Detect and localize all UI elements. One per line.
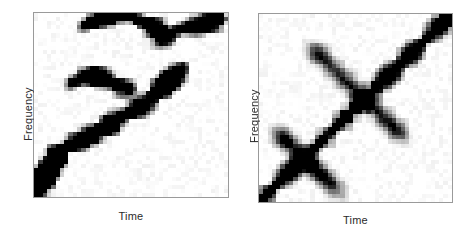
x-axis-label-left: Time bbox=[33, 210, 229, 222]
heatmap-plot-left[interactable] bbox=[33, 12, 229, 198]
panel-left: Frequency Time bbox=[0, 0, 235, 235]
heatmap-canvas-right bbox=[259, 14, 452, 202]
y-axis-label-right: Frequency bbox=[248, 89, 260, 143]
figure-container: Frequency Time Frequency Time bbox=[0, 0, 469, 235]
heatmap-canvas-left bbox=[34, 13, 228, 197]
x-axis-label-right: Time bbox=[258, 214, 453, 226]
heatmap-plot-right[interactable] bbox=[258, 13, 453, 203]
y-axis-label-left: Frequency bbox=[22, 87, 34, 141]
panel-right: Frequency Time bbox=[234, 0, 469, 235]
